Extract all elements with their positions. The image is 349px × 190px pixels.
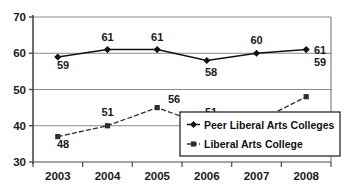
value-label-lac-2004: 51 [101, 106, 113, 118]
y-axis-label-40: 40 [13, 120, 26, 132]
x-axis-label-2008: 2008 [293, 170, 319, 182]
value-label-lac-2008: 59 [314, 56, 326, 68]
value-label-peer-2004: 61 [101, 31, 113, 43]
y-axis-label-70: 70 [13, 11, 26, 23]
legend-label-liberal-arts-college: Liberal Arts College [204, 138, 303, 150]
x-axis-label-2004: 2004 [95, 170, 121, 182]
legend-label-peer-liberal-arts-colleges: Peer Liberal Arts Colleges [204, 119, 334, 131]
x-axis-label-2006: 2006 [194, 170, 220, 182]
x-axis-label-2003: 2003 [45, 170, 71, 182]
line-chart: 70 60 50 40 30 2003 2004 2005 2006 2007 … [0, 0, 349, 190]
value-label-peer-2005: 61 [151, 31, 163, 43]
value-label-peer-2006: 58 [205, 66, 217, 78]
value-label-peer-2007: 60 [250, 34, 262, 46]
chart-canvas: 70 60 50 40 30 2003 2004 2005 2006 2007 … [0, 0, 349, 190]
value-label-lac-2005: 56 [168, 93, 180, 105]
x-axis-label-2007: 2007 [244, 170, 270, 182]
y-axis-label-60: 60 [13, 47, 26, 59]
legend-marker-square-icon [191, 141, 196, 146]
data-point-lac-2005 [155, 105, 160, 110]
value-label-lac-2003: 48 [57, 138, 69, 150]
value-label-peer-2008: 61 [314, 44, 326, 56]
x-axis-label-2005: 2005 [144, 170, 170, 182]
value-label-peer-2003: 59 [57, 59, 69, 71]
y-axis-label-50: 50 [13, 84, 26, 96]
y-axis-label-30: 30 [13, 156, 26, 168]
data-point-lac-2004 [105, 123, 110, 128]
data-point-lac-2008 [304, 94, 309, 99]
